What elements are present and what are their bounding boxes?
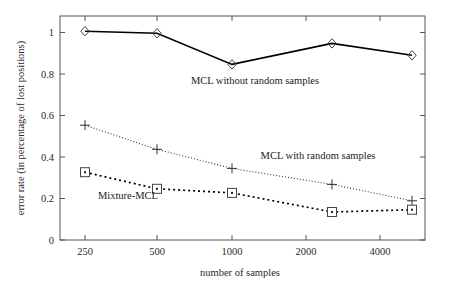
annotation-mcl-without-random-samples: MCL without random samples bbox=[191, 75, 319, 86]
y-tick-label-0-4: 0.4 bbox=[41, 152, 55, 163]
x-axis-label: number of samples bbox=[200, 267, 280, 278]
series-mcl-without-random-samples bbox=[81, 27, 416, 70]
x-tick-label-500: 500 bbox=[149, 246, 165, 257]
x-tick-label-250: 250 bbox=[77, 246, 93, 257]
error-rate-line-chart: 0 0.2 0.4 0.6 0.8 1 250 500 1000 2000 40… bbox=[0, 0, 449, 291]
series-line-mcl-without-random-samples bbox=[85, 31, 412, 64]
y-tick-label-1: 1 bbox=[49, 27, 54, 38]
y-tick-label-0-8: 0.8 bbox=[41, 69, 54, 80]
y-tick-label-0: 0 bbox=[49, 235, 54, 246]
y-axis-ticks bbox=[60, 33, 425, 241]
x-tick-label-2000: 2000 bbox=[296, 246, 317, 257]
chart-figure: 0 0.2 0.4 0.6 0.8 1 250 500 1000 2000 40… bbox=[0, 0, 449, 291]
y-axis-label: error rate (in percentage of lost positi… bbox=[15, 40, 27, 215]
x-tick-label-4000: 4000 bbox=[370, 246, 391, 257]
x-tick-label-1000: 1000 bbox=[222, 246, 243, 257]
annotation-mcl-with-random-samples: MCL with random samples bbox=[261, 150, 376, 161]
y-tick-label-0-6: 0.6 bbox=[41, 110, 54, 121]
y-tick-label-0-2: 0.2 bbox=[41, 193, 54, 204]
x-axis-ticks bbox=[85, 16, 380, 240]
annotation-mixture-mcl: Mixture-MCL bbox=[98, 190, 158, 201]
